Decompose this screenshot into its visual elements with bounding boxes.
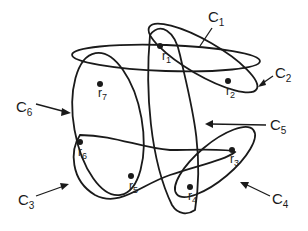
label-r2: r2 xyxy=(226,84,235,100)
arrowhead-c5 xyxy=(205,120,213,128)
label-c5: C5 xyxy=(270,116,287,136)
set-diagram: r1 r2 r3 r4 r5 r6 r7 C1 C2 C5 C4 C6 C3 xyxy=(0,0,308,231)
arrow-c6 xyxy=(36,104,66,112)
arrowhead-c2 xyxy=(258,79,266,87)
label-c2: C2 xyxy=(275,64,292,84)
arrow-c4 xyxy=(245,184,270,196)
curve-c1 xyxy=(141,12,265,103)
arrowhead-c6 xyxy=(61,108,71,116)
label-r3: r3 xyxy=(230,152,239,168)
label-c1: C1 xyxy=(208,8,225,28)
label-r6: r6 xyxy=(78,145,87,161)
arrow-c3 xyxy=(36,186,64,196)
arrowhead-c3 xyxy=(60,183,69,190)
label-r7: r7 xyxy=(98,86,107,102)
label-c6: C6 xyxy=(16,98,33,118)
label-c4: C4 xyxy=(272,190,289,210)
label-c3: C3 xyxy=(18,191,35,211)
label-r1: r1 xyxy=(162,49,171,65)
arrow-c5 xyxy=(210,124,266,125)
label-r4: r4 xyxy=(188,189,197,205)
